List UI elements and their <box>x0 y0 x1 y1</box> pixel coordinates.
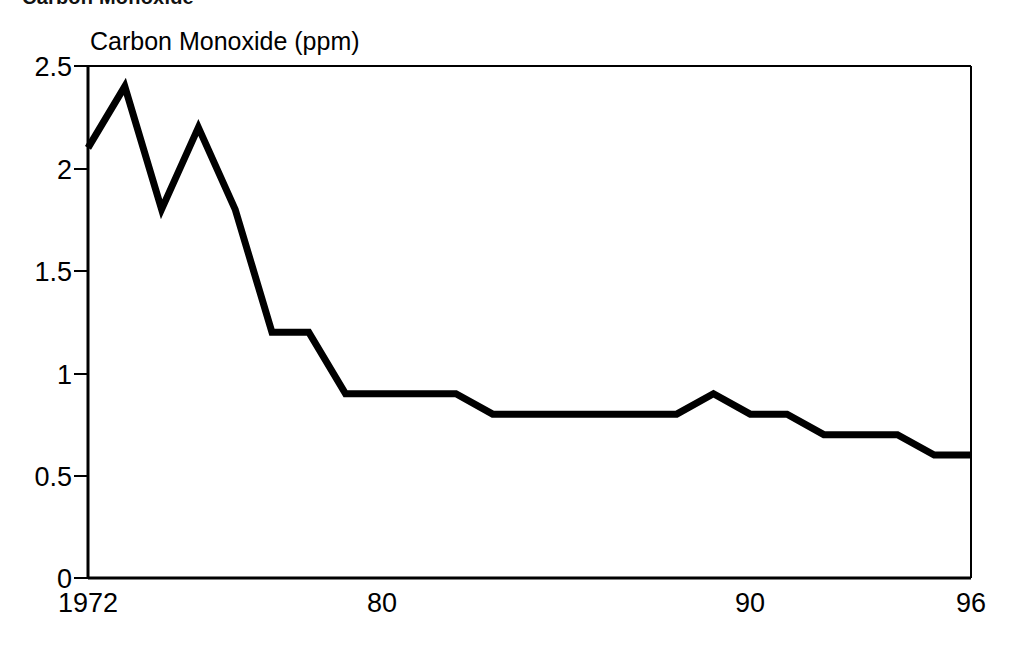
x-tick-label: 80 <box>346 588 418 618</box>
y-tick-label: 2.5 <box>6 52 72 82</box>
line-chart-plot <box>0 0 1011 655</box>
x-tick-label: 96 <box>935 588 1007 618</box>
y-tick-label: 1 <box>6 360 72 390</box>
data-series-line <box>88 86 971 455</box>
y-tick-label: 2 <box>6 155 72 185</box>
chart-figure: Carbon Monoxide Carbon Monoxide (ppm) 2.… <box>0 0 1011 655</box>
x-tick-label: 1972 <box>46 588 130 618</box>
chart-axes <box>88 66 971 578</box>
y-axis-tick-marks <box>74 66 88 578</box>
y-tick-label: 1.5 <box>6 257 72 287</box>
y-tick-label: 0.5 <box>6 462 72 492</box>
x-tick-label: 90 <box>714 588 786 618</box>
